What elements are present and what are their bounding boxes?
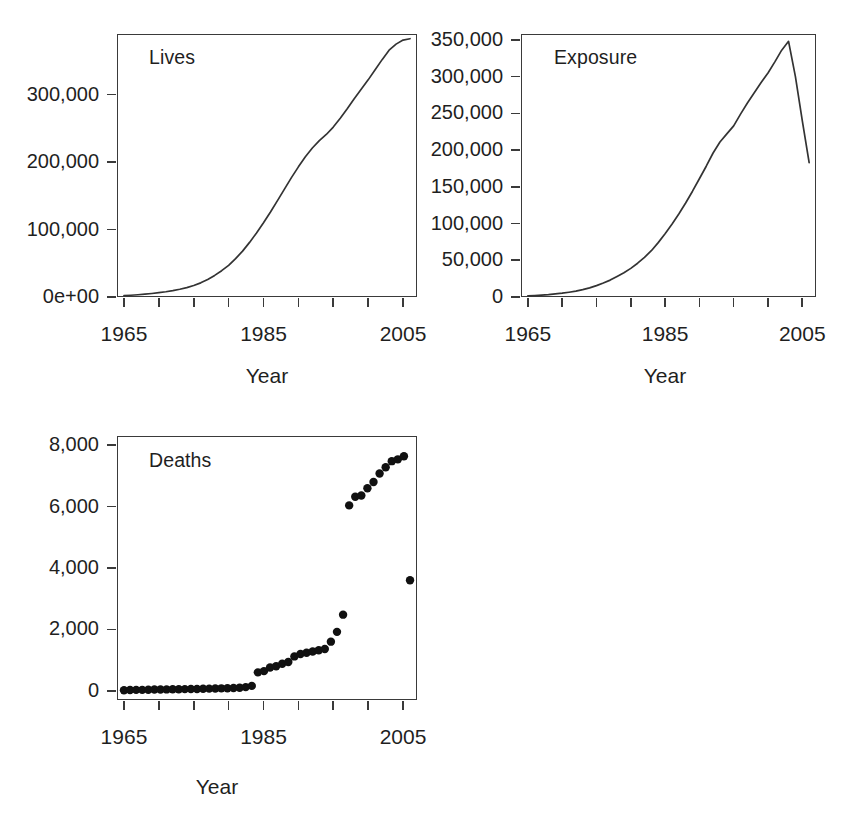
x-tick-mark <box>298 701 300 710</box>
y-tick-mark <box>107 444 116 446</box>
x-tick-mark <box>228 298 230 307</box>
x-tick-mark <box>332 298 334 307</box>
y-tick-mark <box>511 186 520 188</box>
x-tick-label: 1965 <box>79 322 169 346</box>
x-tick-mark <box>193 701 195 710</box>
y-tick-label: 8,000 <box>0 433 99 456</box>
y-tick-label: 4,000 <box>0 556 99 579</box>
x-tick-mark <box>527 298 529 307</box>
y-tick-label: 100,000 <box>351 212 503 235</box>
panel-label-exposure: Exposure <box>554 46 637 69</box>
y-tick-mark <box>107 690 116 692</box>
x-tick-mark <box>298 298 300 307</box>
x-tick-mark <box>228 701 230 710</box>
x-tick-mark <box>332 701 334 710</box>
plot-box-exposure <box>521 34 816 297</box>
panel-label-deaths: Deaths <box>149 449 211 472</box>
x-tick-mark <box>123 298 125 307</box>
x-axis-title-deaths: Year <box>167 775 267 799</box>
y-tick-label: 50,000 <box>351 248 503 271</box>
y-tick-mark <box>511 39 520 41</box>
plot-box-deaths <box>117 436 417 700</box>
y-tick-label: 250,000 <box>351 101 503 124</box>
y-tick-mark <box>107 296 116 298</box>
y-tick-label: 200,000 <box>351 138 503 161</box>
x-axis-title-exposure: Year <box>615 364 715 388</box>
x-tick-mark <box>561 298 563 307</box>
x-tick-mark <box>263 701 265 710</box>
y-tick-label: 300,000 <box>351 65 503 88</box>
y-tick-label: 6,000 <box>0 495 99 518</box>
x-tick-mark <box>158 298 160 307</box>
x-tick-mark <box>801 298 803 307</box>
y-tick-mark <box>107 161 116 163</box>
x-tick-label: 1985 <box>219 725 309 749</box>
x-tick-mark <box>630 298 632 307</box>
y-tick-mark <box>511 76 520 78</box>
y-tick-mark <box>511 296 520 298</box>
y-tick-mark <box>511 223 520 225</box>
x-axis-title-lives: Year <box>217 364 317 388</box>
x-tick-mark <box>664 298 666 307</box>
y-tick-mark <box>107 506 116 508</box>
y-tick-mark <box>107 94 116 96</box>
x-tick-label: 1985 <box>219 322 309 346</box>
x-tick-mark <box>123 701 125 710</box>
y-tick-label: 0 <box>351 285 503 308</box>
y-tick-label: 2,000 <box>0 617 99 640</box>
x-tick-label: 2005 <box>358 725 448 749</box>
x-tick-label: 2005 <box>757 322 844 346</box>
y-tick-mark <box>107 229 116 231</box>
x-tick-mark <box>767 298 769 307</box>
x-tick-mark <box>367 701 369 710</box>
y-tick-label: 350,000 <box>351 28 503 51</box>
y-tick-label: 0 <box>0 679 99 702</box>
x-tick-label: 1985 <box>620 322 710 346</box>
figure-canvas: Lives 0e+00100,000200,000300,00019651985… <box>0 0 844 839</box>
x-tick-mark <box>699 298 701 307</box>
x-tick-label: 1965 <box>79 725 169 749</box>
x-tick-mark <box>402 701 404 710</box>
y-tick-label: 200,000 <box>0 150 99 173</box>
x-tick-label: 1965 <box>483 322 573 346</box>
panel-label-lives: Lives <box>149 46 195 69</box>
y-tick-mark <box>511 149 520 151</box>
y-tick-mark <box>511 113 520 115</box>
x-tick-mark <box>158 701 160 710</box>
y-tick-label: 100,000 <box>0 218 99 241</box>
x-tick-mark <box>263 298 265 307</box>
y-tick-mark <box>511 259 520 261</box>
y-tick-mark <box>107 567 116 569</box>
y-tick-mark <box>107 629 116 631</box>
x-tick-label: 2005 <box>358 322 448 346</box>
x-tick-mark <box>596 298 598 307</box>
x-tick-mark <box>193 298 195 307</box>
y-tick-label: 300,000 <box>0 83 99 106</box>
y-tick-label: 0e+00 <box>0 285 99 308</box>
y-tick-label: 150,000 <box>351 175 503 198</box>
x-tick-mark <box>733 298 735 307</box>
